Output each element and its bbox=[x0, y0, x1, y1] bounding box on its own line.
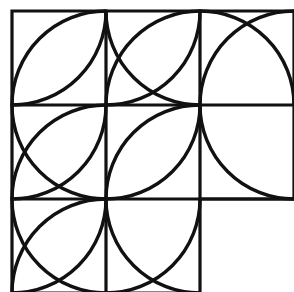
arc-tiling-figure: Arc tiling puzzle figure bbox=[0, 0, 294, 292]
figure-background bbox=[0, 0, 294, 292]
